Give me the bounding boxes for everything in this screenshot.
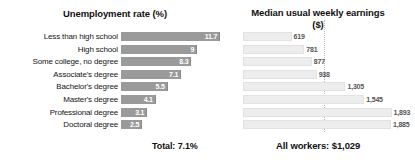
earnings-bar-track: 1,305	[243, 82, 400, 91]
earnings-bar-track: 1,885	[243, 120, 400, 129]
earnings-bar	[243, 108, 392, 117]
category-label: Bachelor's degree	[0, 81, 118, 92]
chart-row: Doctoral degree2.51,885	[0, 119, 409, 130]
earnings-bar	[243, 82, 345, 91]
unemployment-value-label: 8.3	[121, 57, 188, 66]
unemployment-value-label: 9	[121, 45, 194, 54]
unemployment-value-label: 3.1	[121, 108, 144, 117]
earnings-bar	[243, 95, 364, 104]
unemployment-bar-track: 3.1	[121, 108, 227, 117]
earnings-value-label: 619	[294, 32, 326, 41]
earnings-value-label: 1,893	[394, 108, 415, 117]
earnings-value-label: 877	[314, 57, 346, 66]
earnings-value-label: 938	[319, 70, 351, 79]
earnings-value-label: 781	[306, 45, 338, 54]
earnings-bar-track: 877	[243, 57, 400, 66]
unemployment-value-label: 11.7	[121, 32, 217, 41]
category-label: Doctoral degree	[0, 119, 118, 130]
earnings-value-label: 1,545	[366, 95, 398, 104]
unemployment-bar-track: 4.1	[121, 95, 227, 104]
chart-row: High school9781	[0, 44, 409, 55]
earnings-bar-track: 781	[243, 45, 400, 54]
chart-row: Associate's degree7.1938	[0, 69, 409, 80]
earnings-all-workers-note: All workers: $1,029	[276, 140, 360, 151]
unemployment-bar-track: 2.5	[121, 120, 227, 129]
earnings-panel-title: Median usual weekly earnings ($)	[232, 7, 404, 31]
unemployment-bar-track: 8.3	[121, 57, 227, 66]
chart-row: Less than high school11.7619	[0, 31, 409, 42]
category-label: Professional degree	[0, 107, 118, 118]
category-label: Master's degree	[0, 94, 118, 105]
category-label: Some college, no degree	[0, 56, 118, 67]
unemployment-value-label: 7.1	[121, 70, 178, 79]
earnings-bar-track: 619	[243, 32, 400, 41]
unemployment-total-note: Total: 7.1%	[152, 141, 198, 151]
earnings-bar-track: 1,545	[243, 95, 400, 104]
unemployment-bar-track: 5.5	[121, 82, 227, 91]
unemployment-bar-track: 7.1	[121, 70, 227, 79]
earnings-bar-track: 938	[243, 70, 400, 79]
unemployment-value-label: 5.5	[121, 82, 165, 91]
earnings-bar	[243, 57, 312, 66]
unemployment-bar-track: 9	[121, 45, 227, 54]
earnings-value-label: 1,305	[347, 82, 379, 91]
category-label: High school	[0, 44, 118, 55]
earnings-value-label: 1,885	[393, 120, 415, 129]
chart-row: Some college, no degree8.3877	[0, 56, 409, 67]
earnings-bar	[243, 70, 317, 79]
chart-row: Bachelor's degree5.51,305	[0, 81, 409, 92]
earnings-bar-track: 1,893	[243, 108, 400, 117]
earnings-bar	[243, 120, 391, 129]
chart-row: Master's degree4.11,545	[0, 94, 409, 105]
unemployment-value-label: 4.1	[121, 95, 153, 104]
category-label: Associate's degree	[0, 69, 118, 80]
earnings-bar	[243, 32, 292, 41]
unemployment-value-label: 2.5	[121, 120, 139, 129]
earnings-bar	[243, 45, 304, 54]
category-label: Less than high school	[0, 31, 118, 42]
unemployment-panel-title: Unemployment rate (%)	[30, 8, 200, 20]
unemployment-bar-track: 11.7	[121, 32, 227, 41]
chart-row: Professional degree3.11,893	[0, 107, 409, 118]
